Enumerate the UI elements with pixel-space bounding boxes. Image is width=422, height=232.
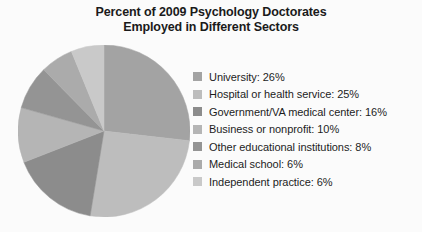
legend-item: Government/VA medical center: 16%: [193, 103, 422, 121]
pie-chart-figure: Percent of 2009 Psychology Doctorates Em…: [0, 0, 422, 232]
legend-item-label: Hospital or health service: 25%: [209, 88, 359, 100]
pie-svg: [18, 45, 190, 217]
legend-item-label: Other educational institutions: 8%: [209, 141, 371, 153]
legend-swatch-icon: [193, 160, 202, 169]
legend-item: Other educational institutions: 8%: [193, 138, 422, 156]
legend-item-label: Medical school: 6%: [209, 158, 303, 170]
chart-title-line-1: Percent of 2009 Psychology Doctorates: [0, 5, 422, 20]
legend-item-label: Government/VA medical center: 16%: [209, 106, 387, 118]
legend-item: Business or nonprofit: 10%: [193, 121, 422, 139]
legend-item-label: Independent practice: 6%: [209, 176, 333, 188]
chart-title-line-2: Employed in Different Sectors: [0, 20, 422, 35]
chart-legend: University: 26%Hospital or health servic…: [193, 68, 422, 191]
legend-item: Independent practice: 6%: [193, 173, 422, 191]
legend-swatch-icon: [193, 125, 202, 134]
legend-swatch-icon: [193, 72, 202, 81]
pie-slice-group: [18, 45, 190, 217]
legend-swatch-icon: [193, 90, 202, 99]
chart-title: Percent of 2009 Psychology Doctorates Em…: [0, 5, 422, 35]
legend-swatch-icon: [193, 142, 202, 151]
legend-item-label: Business or nonprofit: 10%: [209, 123, 339, 135]
pie-graphic: [18, 45, 190, 217]
pie-slice: [104, 45, 190, 141]
legend-item-label: University: 26%: [209, 71, 285, 83]
legend-swatch-icon: [193, 107, 202, 116]
legend-item: Hospital or health service: 25%: [193, 86, 422, 104]
legend-item: University: 26%: [193, 68, 422, 86]
legend-swatch-icon: [193, 177, 202, 186]
pie-slice: [90, 131, 189, 217]
legend-item: Medical school: 6%: [193, 156, 422, 174]
